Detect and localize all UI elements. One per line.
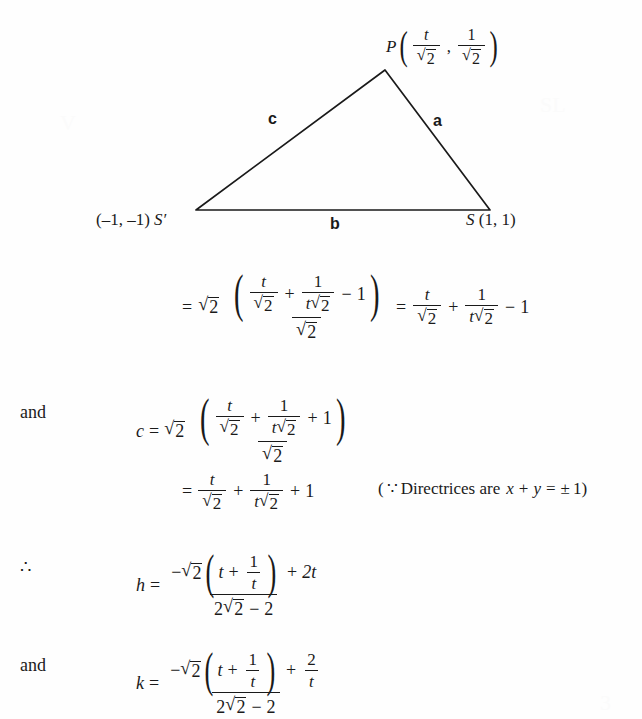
two: 2 — [233, 599, 244, 620]
two: 2 — [212, 494, 223, 514]
apex-x-num: t — [424, 26, 428, 43]
triangle-diagram: P ( t √2 , 1 √2 ) c a — [0, 0, 642, 250]
equation-line-3: = t √2 + 1 t√2 + 1 — [182, 470, 314, 514]
x-symbol: x — [506, 479, 514, 499]
left-vertex-name: S′ — [154, 210, 166, 229]
page-canvas: SL V 3 P ( t √2 , 1 √2 — [0, 0, 642, 719]
t-symbol: t — [251, 574, 256, 593]
two: 2 — [229, 420, 240, 440]
sqrt-icon: √2 — [310, 295, 330, 316]
line2-big-fraction: ( t √2 + 1 t√2 + 1 ) √2 — [192, 396, 353, 467]
t-symbol: t — [217, 660, 222, 680]
plus-operator: + — [285, 284, 295, 304]
equals-operator: = — [546, 479, 556, 499]
sqrt-icon: √2 — [180, 660, 201, 682]
line5-big-fraction: − √2 ( t + 1 t ) + 2 t — [166, 650, 326, 718]
one: 1 — [314, 272, 323, 291]
minus-operator: − — [249, 599, 259, 619]
one: 1 — [357, 284, 366, 304]
equation-line-4: h = − √2 ( t + 1 t ) + 2t — [136, 552, 322, 620]
apex-label: P ( t √2 , 1 √2 ) — [386, 26, 500, 68]
sqrt-icon: √2 — [254, 295, 274, 316]
line3-lead: = — [182, 481, 192, 502]
vertex-label-left: (–1, –1) S′ — [96, 210, 166, 230]
paren-close-icon: ) — [268, 553, 277, 591]
scan-artifact: 3 — [600, 690, 611, 716]
t-symbol: t — [227, 396, 232, 415]
two: 2 — [484, 309, 495, 329]
apex-x-fraction: t √2 — [413, 26, 440, 68]
line3-term2: 1 t√2 — [250, 470, 283, 514]
minus-operator: − — [341, 284, 351, 304]
one: 1 — [262, 470, 271, 489]
line1-big-fraction: ( t √2 + 1 t√2 − 1 ) — [226, 272, 387, 343]
sqrt-icon: √2 — [181, 562, 202, 584]
line2-factor: 2 — [174, 421, 185, 442]
line5-inner-fraction: 1 t — [245, 650, 262, 691]
note-close-paren: ) — [581, 479, 587, 499]
line2-lead-and: and — [20, 402, 46, 423]
one: 1 — [477, 285, 486, 304]
equals-operator: = — [396, 297, 406, 318]
two: 2 — [235, 697, 246, 718]
plus-operator: + — [307, 408, 317, 428]
two: 2 — [263, 296, 274, 316]
minus-operator: − — [251, 697, 261, 717]
equals-operator: = — [149, 673, 159, 694]
line1-factor: 2 — [208, 297, 219, 318]
t-symbol: t — [309, 672, 314, 691]
plus-minus-icon: ± — [561, 479, 570, 499]
t-symbol: t — [425, 285, 430, 304]
two: 2 — [190, 661, 201, 682]
minus-operator: − — [170, 660, 180, 680]
sqrt-icon: √2 — [296, 321, 317, 343]
t-symbol: t — [210, 470, 215, 489]
side-label-b: b — [330, 215, 340, 233]
variable-k: k — [136, 673, 144, 694]
plus-operator: + — [228, 562, 238, 582]
plus-operator: + — [286, 660, 296, 680]
paren-close-icon: ) — [267, 651, 276, 689]
sqrt-icon: √2 — [276, 419, 296, 440]
sqrt-icon: √2 — [262, 445, 283, 467]
sqrt-icon: √2 — [417, 308, 437, 329]
one: 1 — [573, 479, 582, 499]
line3-term1: t √2 — [198, 470, 226, 514]
two: 2 — [272, 446, 283, 467]
left-vertex-coord: (–1, –1) — [96, 210, 150, 229]
paren-close-icon: ) — [336, 398, 346, 439]
two: 2 — [306, 322, 317, 343]
two: 2 — [267, 697, 276, 717]
sqrt-icon: √2 — [223, 598, 244, 620]
t-symbol: t — [218, 562, 223, 582]
side-label-a: a — [433, 112, 442, 130]
one: 1 — [250, 552, 259, 571]
sqrt-icon: √2 — [474, 308, 494, 329]
vertex-label-right: S (1, 1) — [466, 210, 516, 230]
plus-operator: + — [227, 660, 237, 680]
apex-x-den: 2 — [426, 49, 436, 68]
apex-y-den: 2 — [471, 49, 481, 68]
paren-open-icon: ( — [200, 398, 210, 439]
two: 2 — [269, 494, 280, 514]
line1-num-term2: 1 t√2 — [302, 272, 335, 316]
paren-close-icon: ) — [489, 30, 497, 63]
sqrt-icon: √2 — [202, 493, 222, 514]
because-icon: ∵ — [387, 478, 398, 499]
minus-operator: − — [505, 297, 515, 318]
two: 2 — [214, 599, 223, 619]
sqrt-icon: √2 — [259, 493, 279, 514]
line2-num-term2: 1 t√2 — [268, 396, 301, 440]
line4-big-fraction: − √2 ( t + 1 t ) + 2t 2 √2 — [167, 552, 320, 620]
line5-tail-fraction: 2 t — [303, 650, 320, 691]
equation-line-5: k = − √2 ( t + 1 t ) + 2 — [136, 650, 328, 718]
line4-lead-therefore: ∴ — [20, 556, 31, 578]
equation-line-1: = √2 ( t √2 + 1 t√2 — [182, 272, 529, 343]
equals-operator: = — [150, 575, 160, 596]
one: 1 — [323, 408, 332, 428]
side-label-c: c — [268, 110, 277, 128]
paren-open-icon: ( — [206, 553, 215, 591]
one: 1 — [520, 297, 529, 318]
sqrt-icon: √2 — [220, 419, 240, 440]
plus-operator: + — [519, 479, 529, 499]
